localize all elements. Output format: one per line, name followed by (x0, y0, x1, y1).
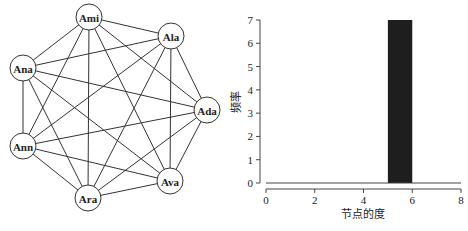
y-tick-label: 2 (248, 130, 254, 142)
x-tick-label: 0 (263, 194, 269, 206)
y-tick-label: 1 (248, 154, 254, 166)
histogram-bars (388, 20, 412, 183)
y-tick-label: 5 (248, 61, 254, 73)
y-axis-title: 频率 (229, 91, 243, 113)
x-tick-label: 8 (458, 194, 464, 206)
y-tick-label: 7 (248, 14, 254, 26)
degree-histogram: 01234567 02468 节点的度 频率 (0, 0, 468, 231)
y-axis-ticks: 01234567 (248, 14, 261, 189)
x-axis-title: 节点的度 (341, 207, 385, 221)
x-axis-ticks: 02468 (263, 189, 464, 206)
y-tick-label: 3 (248, 107, 254, 119)
x-tick-label: 6 (410, 194, 416, 206)
y-tick-label: 4 (248, 84, 254, 96)
x-tick-label: 4 (361, 194, 367, 206)
y-tick-label: 6 (248, 37, 254, 49)
x-tick-label: 2 (312, 194, 318, 206)
y-tick-label: 0 (248, 177, 254, 189)
histogram-bar (388, 20, 412, 183)
